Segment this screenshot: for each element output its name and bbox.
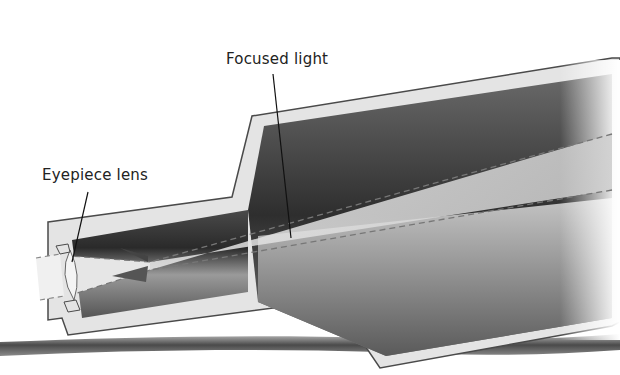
label-focused-light: Focused light [226, 50, 328, 68]
label-eyepiece-lens: Eyepiece lens [42, 166, 148, 184]
exit-light [36, 254, 64, 300]
